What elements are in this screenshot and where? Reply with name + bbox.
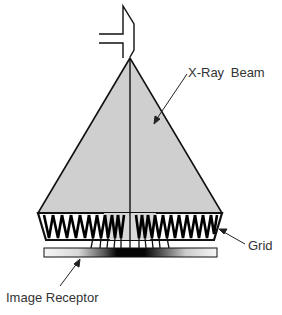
xray-beam bbox=[38, 58, 222, 213]
xray-tube-icon bbox=[99, 6, 134, 58]
xray-grid-diagram bbox=[0, 0, 282, 315]
label-grid: Grid bbox=[248, 238, 273, 253]
grid bbox=[38, 213, 222, 240]
image-receptor bbox=[44, 248, 217, 257]
label-xray-beam: X-Ray Beam bbox=[188, 65, 265, 80]
label-image-receptor: Image Receptor bbox=[6, 290, 99, 305]
